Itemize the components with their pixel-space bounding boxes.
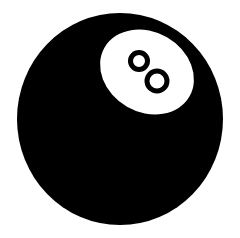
eight-ball-illustration: 8 [0,0,240,238]
eight-ball-svg: 8 [0,0,240,238]
